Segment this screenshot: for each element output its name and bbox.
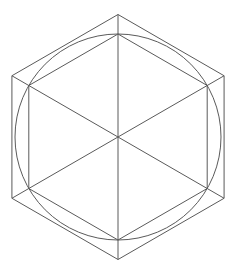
hexagon-diagram — [0, 0, 232, 270]
diagram-layer — [12, 15, 224, 260]
